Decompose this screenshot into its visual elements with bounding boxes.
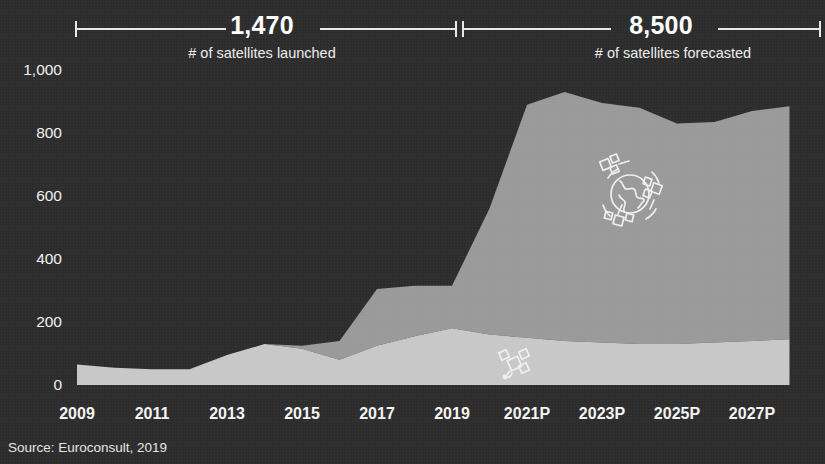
satellite-icon xyxy=(496,345,536,387)
satellites-forecasted-value: 8,500 xyxy=(605,10,717,40)
source-note: Source: Euroconsult, 2019 xyxy=(8,440,167,455)
left-bracket-rule-b xyxy=(320,28,455,30)
left-bracket-rule-a xyxy=(76,28,226,30)
satellites-launched-caption: # of satellites launched xyxy=(142,44,382,62)
y-axis-tick-label: 200 xyxy=(0,314,62,330)
y-axis-tick-label: 400 xyxy=(0,251,62,267)
stacked-area-plot xyxy=(0,0,825,464)
y-axis-tick-label: 800 xyxy=(0,125,62,141)
y-axis-tick-label: 600 xyxy=(0,188,62,204)
globe-constellation-icon xyxy=(582,148,678,240)
satellites-forecasted-caption: # of satellites forecasted xyxy=(528,44,818,62)
summary-bracket-band: 1,470 # of satellites launched 8,500 # o… xyxy=(0,0,825,56)
right-bracket-rule-a xyxy=(463,28,611,30)
right-bracket-end-cap xyxy=(819,21,821,37)
y-axis-tick-label: 0 xyxy=(0,377,62,393)
constellations-area xyxy=(77,92,790,369)
infographic-chart: 1,470 # of satellites launched 8,500 # o… xyxy=(0,0,825,464)
x-axis-tick-label: 2027P xyxy=(707,404,797,424)
left-bracket-end-cap xyxy=(455,21,457,37)
y-axis-tick-label: 1,000 xyxy=(0,62,62,78)
satellites-launched-value: 1,470 xyxy=(206,10,318,40)
right-bracket-rule-b xyxy=(718,28,820,30)
